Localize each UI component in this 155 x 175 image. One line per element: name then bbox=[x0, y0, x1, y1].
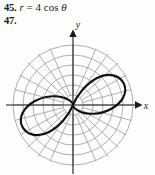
polar-spoke-300 bbox=[78, 114, 108, 157]
polar-spoke-315 bbox=[80, 112, 118, 147]
textbook-answer-page: 45.r = 4 cos θ 47. bbox=[0, 0, 155, 175]
answer-number-45: 45. bbox=[4, 2, 17, 13]
y-axis-label: y bbox=[75, 22, 81, 30]
polar-spoke-285 bbox=[76, 115, 96, 162]
polar-spoke-225 bbox=[28, 112, 66, 147]
polar-spoke-105 bbox=[50, 49, 70, 96]
answer-expression-45: = 4 cos bbox=[24, 1, 61, 13]
y-axis-arrow-icon bbox=[69, 30, 76, 38]
polar-spoke-120 bbox=[38, 54, 68, 97]
polar-spoke-255 bbox=[50, 115, 70, 162]
answer-item-45: 45.r = 4 cos θ bbox=[4, 1, 152, 14]
polar-spoke-135 bbox=[28, 63, 66, 98]
polar-graph-svg: x y bbox=[0, 22, 155, 175]
polar-spoke-45 bbox=[80, 63, 118, 98]
x-axis: x bbox=[6, 100, 149, 111]
answer-variable-r-45: r bbox=[17, 1, 24, 13]
polar-spoke-75 bbox=[76, 49, 96, 96]
x-axis-label: x bbox=[143, 100, 149, 111]
polar-graph-figure: x y bbox=[0, 22, 155, 175]
answer-theta-symbol-45: θ bbox=[61, 1, 66, 13]
x-axis-arrow-icon bbox=[135, 101, 143, 108]
